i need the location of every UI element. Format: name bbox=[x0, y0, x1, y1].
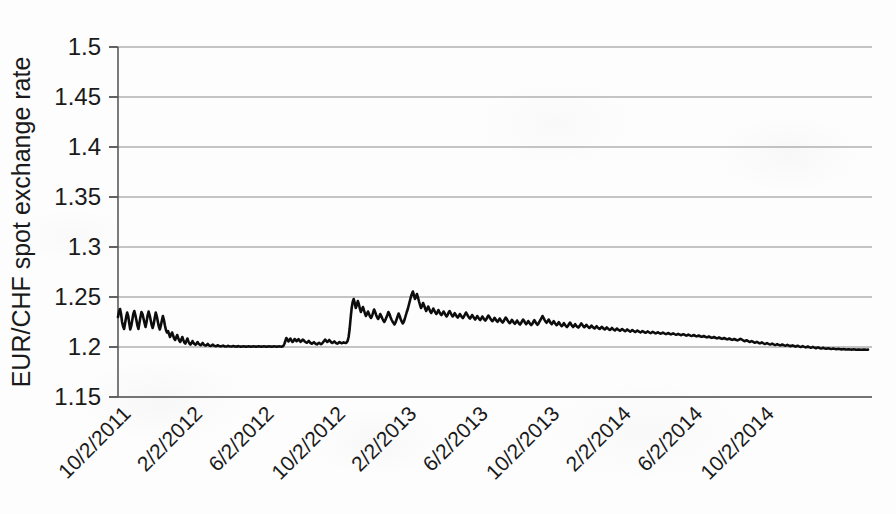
x-axis-tick-label: 6/2/2014 bbox=[633, 401, 707, 475]
x-axis-tick-label: 10/2/2013 bbox=[481, 402, 563, 484]
x-axis-tick-label: 10/2/2014 bbox=[696, 401, 779, 484]
y-axis-tick-label: 1.2 bbox=[68, 333, 101, 360]
y-axis-tick-label: 1.15 bbox=[54, 383, 101, 410]
x-axis-tick-labels: 10/2/20112/2/20126/2/201210/2/20122/2/20… bbox=[54, 401, 779, 484]
y-axis-tick-label: 1.35 bbox=[54, 183, 101, 210]
chart-screenshot: 1.151.21.251.31.351.41.451.5 10/2/20112/… bbox=[0, 0, 896, 514]
x-axis-tick-label: 2/2/2014 bbox=[561, 401, 635, 475]
x-axis-tick-label: 6/2/2012 bbox=[204, 402, 278, 476]
eurchf-spot-exchange-rate-line-chart: 1.151.21.251.31.351.41.451.5 10/2/20112/… bbox=[0, 0, 896, 514]
y-axis-tick-label: 1.45 bbox=[54, 83, 101, 110]
y-axis-tick-label: 1.3 bbox=[68, 233, 101, 260]
y-axis-tick-label: 1.4 bbox=[68, 133, 101, 160]
data-line-eurchf bbox=[118, 292, 868, 350]
x-axis-tick-label: 10/2/2011 bbox=[54, 402, 135, 483]
y-axis-tick-labels: 1.151.21.251.31.351.41.451.5 bbox=[54, 33, 101, 410]
y-axis-tick-label: 1.25 bbox=[54, 283, 101, 310]
y-axis-tick-label: 1.5 bbox=[68, 33, 101, 60]
horizontal-gridlines bbox=[118, 47, 872, 397]
y-axis-tick-marks bbox=[109, 47, 118, 397]
y-axis-title: EUR/CHF spot exchange rate bbox=[7, 57, 35, 388]
x-axis-tick-label: 6/2/2013 bbox=[418, 402, 492, 476]
x-axis-tick-label: 2/2/2013 bbox=[347, 402, 421, 476]
x-axis-tick-label: 10/2/2012 bbox=[267, 402, 349, 484]
x-axis-tick-label: 2/2/2012 bbox=[132, 402, 206, 476]
